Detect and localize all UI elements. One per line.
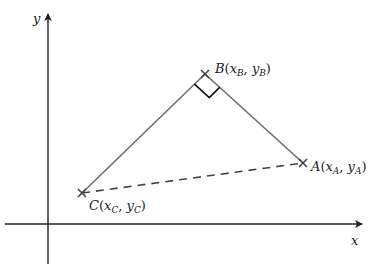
x-axis-label: x: [351, 233, 359, 248]
point-label-c: C(xC, yC): [89, 198, 146, 215]
segment-ba: [205, 74, 303, 163]
point-label-a: A(xA, yA): [310, 159, 367, 176]
segment-ca-dashed: [82, 163, 303, 193]
diagram-canvas: x y B(xB, yB) A(xA, yA) C(xC, yC): [0, 0, 390, 266]
point-marker-b: [201, 70, 209, 78]
y-axis-label: y: [32, 11, 41, 26]
segment-cb: [82, 74, 205, 193]
right-angle-marker: [195, 84, 220, 97]
point-label-b: B(xB, yB): [214, 61, 271, 78]
axes: x y: [5, 11, 362, 264]
point-marker-a: [299, 159, 307, 167]
